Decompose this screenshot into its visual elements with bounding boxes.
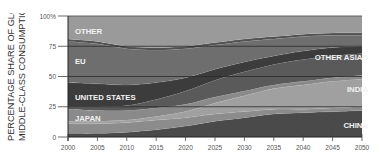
label-other: OTHER bbox=[75, 27, 103, 36]
x-tick-label: 2045 bbox=[325, 144, 340, 151]
x-tick-label: 2025 bbox=[208, 144, 223, 151]
label-eu: EU bbox=[75, 57, 86, 66]
x-tick-label: 2050 bbox=[355, 144, 370, 151]
y-tick-label: 0 bbox=[52, 134, 56, 141]
x-tick-label: 2035 bbox=[267, 144, 282, 151]
x-tick-label: 2015 bbox=[149, 144, 164, 151]
label-united-states: UNITED STATES bbox=[75, 93, 136, 102]
y-tick-label: 100% bbox=[39, 13, 56, 20]
label-india: INDIA bbox=[347, 85, 369, 94]
y-tick-label: 25 bbox=[49, 103, 57, 110]
label-japan: JAPAN bbox=[75, 114, 101, 123]
label-china: CHINA bbox=[343, 121, 368, 130]
y-tick-label: 50 bbox=[49, 73, 57, 80]
y-axis-ticks: 0255075100% bbox=[39, 13, 68, 141]
x-tick-label: 2010 bbox=[120, 144, 135, 151]
x-tick-label: 2030 bbox=[237, 144, 252, 151]
label-other-asian: OTHER ASIAN bbox=[315, 53, 369, 62]
x-tick-label: 2005 bbox=[90, 144, 105, 151]
x-tick-label: 2020 bbox=[178, 144, 193, 151]
x-tick-label: 2000 bbox=[61, 144, 76, 151]
x-tick-label: 2040 bbox=[296, 144, 311, 151]
y-tick-label: 75 bbox=[49, 43, 57, 50]
stacked-area-chart: 0255075100%20002005201020152020202520302… bbox=[0, 0, 382, 162]
